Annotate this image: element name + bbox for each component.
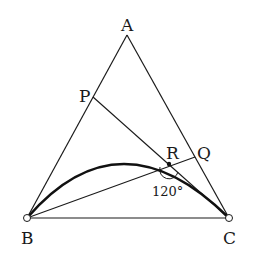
side-ab [27, 35, 127, 218]
label-c: C [223, 228, 236, 248]
label-p: P [79, 86, 90, 106]
point-c-marker [226, 215, 233, 222]
geometry-diagram: A P R Q B C 120° [0, 0, 255, 259]
arc-brc [27, 164, 229, 218]
label-r: R [166, 143, 180, 163]
label-a: A [120, 15, 134, 35]
angle-label: 120° [152, 184, 183, 199]
label-b: B [21, 228, 34, 248]
point-b-marker [24, 215, 31, 222]
label-q: Q [197, 143, 211, 163]
